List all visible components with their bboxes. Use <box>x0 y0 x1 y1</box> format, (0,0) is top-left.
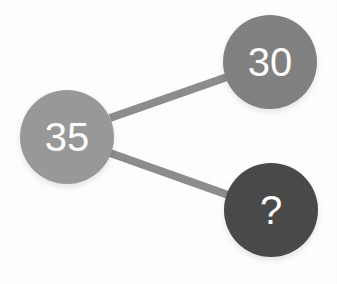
node-35[interactable]: 35 <box>20 90 114 184</box>
node-unknown[interactable]: ? <box>224 163 318 257</box>
node-30[interactable]: 30 <box>223 15 317 109</box>
node-graph-canvas: 35 30 ? <box>0 0 337 284</box>
node-30-label: 30 <box>248 42 293 82</box>
node-35-label: 35 <box>45 117 90 157</box>
edge-35-to-30 <box>110 76 230 118</box>
node-unknown-label: ? <box>260 190 282 230</box>
edge-35-to-unknown <box>110 153 231 196</box>
